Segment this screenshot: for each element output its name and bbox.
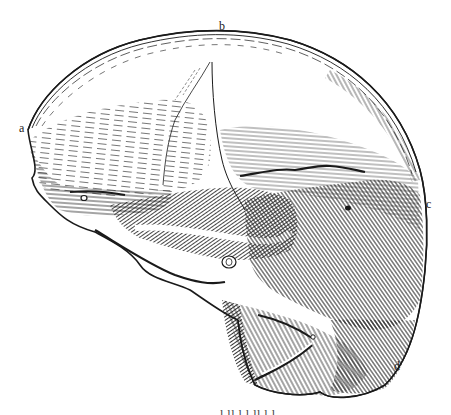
skull-illustration [0, 0, 451, 415]
ear-canal [222, 256, 236, 268]
label-a: a [19, 122, 24, 134]
small-foramen [81, 196, 87, 201]
parietal-pit [345, 206, 351, 211]
occipital-right-band [330, 319, 415, 393]
label-d: d [394, 360, 400, 372]
foramen-d [311, 335, 315, 339]
label-b: b [219, 20, 225, 32]
caption-fragment: l ll l l ll l l [220, 405, 450, 415]
label-c: c [426, 198, 431, 210]
